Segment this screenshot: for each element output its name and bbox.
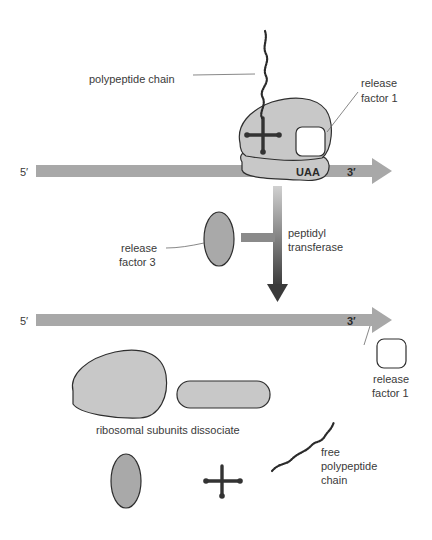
bottom-mrna-3prime-label: 3′ [347,315,356,327]
free-chain-label-line2: polypeptide [321,460,377,472]
top-rf1-label-line1: release [361,77,397,89]
free-chain-label-line1: free [321,446,340,458]
bottom-rf1-leader-line [364,326,370,345]
polypeptide-leader-line [193,74,255,75]
free-chain-label-line3: chain [321,474,347,486]
release-factor-3 [204,212,234,266]
top-rf1-leader-line [327,92,358,132]
top-mrna-3prime-label: 3′ [347,166,356,178]
top-rf1-label-line2: factor 1 [361,92,398,104]
enzyme-label-line1: peptidyl [288,227,326,239]
rf3-leader-line [166,243,204,248]
rf3-label-line2: factor 3 [119,256,156,268]
rf3-label-line1: release [121,242,157,254]
bottom-release-factor-1 [377,339,406,368]
stop-codon-label: UAA [296,166,320,178]
bottom-mrna-5prime-label: 5′ [20,315,28,327]
free-small-subunit [177,381,270,408]
top-release-factor-1 [296,127,325,156]
bottom-rf1-label-line2: factor 1 [372,387,409,399]
free-release-factor-3 [111,454,141,508]
free-large-subunit [72,350,166,418]
top-mrna-5prime-label: 5′ [20,166,28,178]
free-trna-icon [203,466,243,499]
bottom-mrna [36,307,392,333]
polypeptide-chain-label: polypeptide chain [89,73,175,85]
enzyme-label-line2: transferase [288,241,343,253]
process-arrow [241,186,288,302]
top-mrna [36,158,392,184]
termination-diagram: 5′ UAA 3′ polypeptide chain release fact… [0,0,432,540]
subunits-dissociate-label: ribosomal subunits dissociate [96,424,240,436]
bottom-rf1-label-line1: release [373,373,409,385]
